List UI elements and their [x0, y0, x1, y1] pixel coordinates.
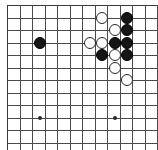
grid-line-vertical-4 [57, 5, 58, 150]
hoshi-left [38, 116, 42, 120]
grid-line-vertical-1 [20, 5, 21, 150]
grid-line-vertical-6 [82, 5, 83, 150]
grid-line-vertical-0 [7, 5, 8, 150]
grid-line-vertical-11 [145, 5, 146, 150]
goban-grid[interactable] [0, 0, 158, 150]
grid-line-vertical-12 [157, 5, 158, 150]
grid-line-vertical-5 [70, 5, 71, 150]
grid-line-vertical-7 [95, 5, 96, 150]
hoshi-right [113, 116, 117, 120]
go-board-diagram [0, 0, 158, 150]
grid-line-vertical-8 [107, 5, 108, 150]
grid-line-vertical-3 [45, 5, 46, 150]
grid-line-vertical-2 [32, 5, 33, 150]
